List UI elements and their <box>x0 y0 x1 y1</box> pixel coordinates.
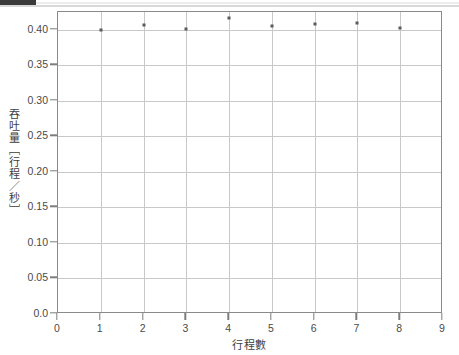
x-tick-label: 1 <box>97 322 103 334</box>
y-tick-label: 0.05 <box>28 271 48 283</box>
y-tick-mark <box>50 99 57 100</box>
gridline-horizontal <box>58 101 441 102</box>
gridline-horizontal <box>58 172 441 173</box>
x-tick-label: 0 <box>54 322 60 334</box>
y-axis-title-text: 吞吐量［行程／秒］ <box>6 108 22 216</box>
y-tick-label: 0.25 <box>28 129 48 141</box>
gridline-horizontal <box>58 278 441 279</box>
data-point <box>185 28 188 31</box>
y-tick-mark <box>50 241 57 242</box>
data-point <box>399 27 402 30</box>
gridline-vertical <box>186 12 187 312</box>
y-tick-mark <box>50 206 57 207</box>
gridline-vertical <box>144 12 145 312</box>
y-tick-label: 0.35 <box>28 58 48 70</box>
scan-artifact-line <box>0 5 459 7</box>
y-tick-label: 0.30 <box>28 94 48 106</box>
y-axis-title: 吞吐量［行程／秒］ <box>4 11 24 313</box>
gridline-vertical <box>315 12 316 312</box>
x-tick-mark <box>185 313 186 320</box>
gridline-vertical <box>272 12 273 312</box>
x-tick-label: 8 <box>396 322 402 334</box>
x-tick-mark <box>356 313 357 320</box>
x-tick-label: 7 <box>354 322 360 334</box>
gridline-horizontal <box>58 243 441 244</box>
y-tick-mark <box>50 135 57 136</box>
y-tick-label: 0.15 <box>28 200 48 212</box>
gridline-vertical <box>400 12 401 312</box>
x-tick-mark <box>99 313 100 320</box>
x-tick-mark <box>270 313 271 320</box>
x-tick-mark <box>142 313 143 320</box>
x-tick-mark <box>313 313 314 320</box>
gridline-vertical <box>229 12 230 312</box>
plot-area <box>57 11 442 313</box>
x-tick-label: 9 <box>439 322 445 334</box>
x-tick-label: 3 <box>182 322 188 334</box>
y-tick-mark <box>50 277 57 278</box>
data-point <box>99 29 102 32</box>
gridline-vertical <box>357 12 358 312</box>
x-tick-label: 2 <box>140 322 146 334</box>
gridline-horizontal <box>58 136 441 137</box>
data-point <box>142 23 145 26</box>
gridline-horizontal <box>58 30 441 31</box>
x-tick-mark <box>399 313 400 320</box>
data-point <box>313 23 316 26</box>
y-tick-label: 0.40 <box>28 23 48 35</box>
y-tick-label: 0.0 <box>33 307 48 319</box>
chart-page: 0.00.050.100.150.200.250.300.350.40 吞吐量［… <box>0 0 459 355</box>
y-tick-label: 0.20 <box>28 165 48 177</box>
data-point <box>356 21 359 24</box>
x-tick-mark <box>441 313 442 320</box>
x-tick-label: 5 <box>268 322 274 334</box>
gridline-vertical <box>101 12 102 312</box>
y-tick-label: 0.10 <box>28 236 48 248</box>
gridline-horizontal <box>58 207 441 208</box>
scan-artifact-line-upper <box>36 2 459 4</box>
y-tick-mark <box>50 28 57 29</box>
x-tick-label: 4 <box>225 322 231 334</box>
gridline-horizontal <box>58 65 441 66</box>
data-point <box>270 25 273 28</box>
x-axis-title: 行程數 <box>57 336 442 352</box>
x-tick-mark <box>56 313 57 320</box>
y-tick-mark <box>50 64 57 65</box>
data-point <box>228 16 231 19</box>
x-tick-label: 6 <box>311 322 317 334</box>
y-tick-mark <box>50 170 57 171</box>
x-tick-mark <box>227 313 228 320</box>
